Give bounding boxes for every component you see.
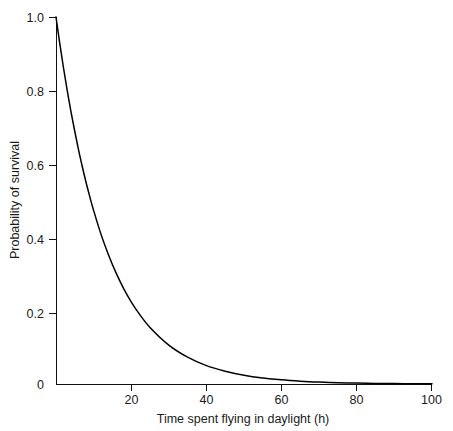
- y-axis-title: Probability of survival: [8, 141, 22, 259]
- x-tick-label-60: 60: [275, 393, 289, 407]
- y-tick-label-0.4: 0.4: [27, 233, 44, 247]
- x-axis-title: Time spent flying in daylight (h): [157, 412, 330, 426]
- survival-probability-curve: [56, 17, 432, 384]
- x-tick-label-20: 20: [125, 393, 139, 407]
- chart-plot-area: 1.0 0.8 0.6 0.4 0.2 0 20 40 60 80 100 Ti…: [0, 0, 453, 431]
- chart-figure: 1.0 0.8 0.6 0.4 0.2 0 20 40 60 80 100 Ti…: [0, 0, 453, 431]
- x-tick-label-40: 40: [200, 393, 214, 407]
- y-tick-label-0.8: 0.8: [27, 85, 44, 99]
- x-tick-label-80: 80: [350, 393, 364, 407]
- x-tick-label-100: 100: [421, 393, 442, 407]
- y-tick-label-0.6: 0.6: [27, 159, 44, 173]
- y-tick-label-0.2: 0.2: [27, 307, 44, 321]
- y-tick-label-1.0: 1.0: [27, 11, 44, 25]
- y-tick-label-0: 0: [37, 378, 44, 392]
- y-axis-ticks: [49, 18, 56, 314]
